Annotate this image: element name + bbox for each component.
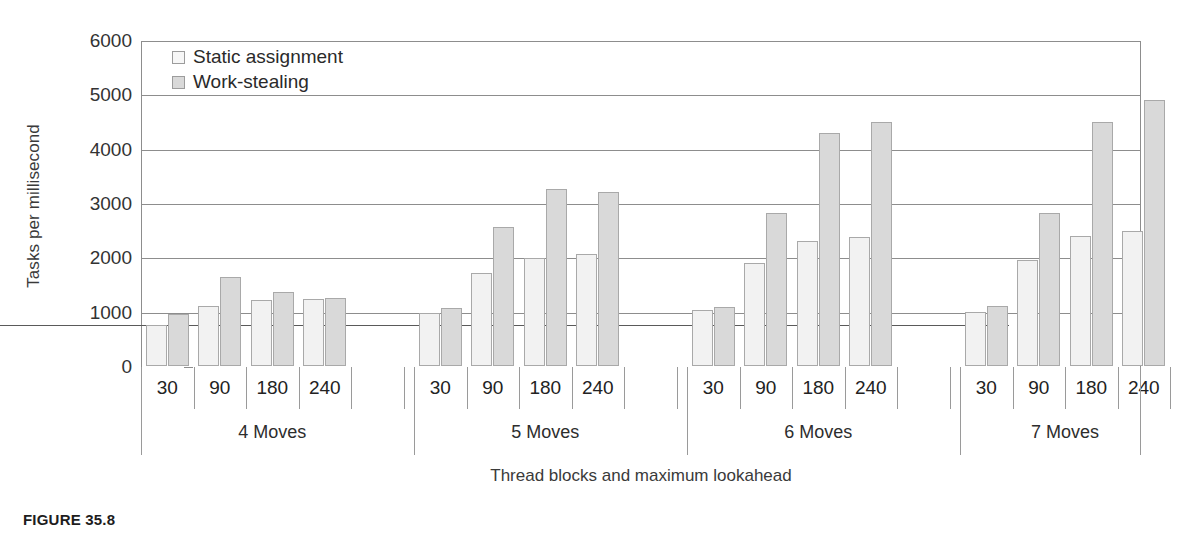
group-separator <box>1140 409 1141 455</box>
chart-legend: Static assignment Work-stealing <box>172 46 343 93</box>
legend-item-static-assignment: Static assignment <box>172 46 343 68</box>
category-separator <box>351 367 352 409</box>
bar-static-assignment-5-moves-30 <box>419 313 440 366</box>
work-stealing-swatch-icon <box>172 76 185 89</box>
y-tick-label-6000: 6000 <box>62 30 132 52</box>
bar-static-assignment-5-moves-90 <box>471 273 492 366</box>
category-label-90: 90 <box>467 367 520 409</box>
category-label-90: 90 <box>740 367 793 409</box>
bar-work-stealing-4-moves-90 <box>220 277 241 366</box>
bar-work-stealing-5-moves-240 <box>598 192 619 366</box>
group-label-6-moves: 6 Moves <box>687 409 950 455</box>
y-tick-label-2000: 2000 <box>62 247 132 269</box>
bar-work-stealing-5-moves-90 <box>493 227 514 366</box>
category-label-180: 180 <box>792 367 845 409</box>
category-label-240: 240 <box>299 367 352 409</box>
bar-work-stealing-4-moves-240 <box>325 298 346 366</box>
y-tick-label-0: 0 <box>62 356 132 378</box>
bar-static-assignment-4-moves-90 <box>198 306 219 366</box>
category-separator <box>404 367 405 409</box>
group-label-7-moves: 7 Moves <box>960 409 1170 455</box>
bar-work-stealing-6-moves-30 <box>714 307 735 366</box>
x-axis-title: Thread blocks and maximum lookahead <box>141 466 1141 486</box>
bar-work-stealing-4-moves-180 <box>273 292 294 366</box>
y-tick-label-3000: 3000 <box>62 193 132 215</box>
category-axis: 3090180240309018024030901802403090180240 <box>141 367 1141 409</box>
bar-static-assignment-6-moves-30 <box>692 310 713 366</box>
bar-work-stealing-6-moves-240 <box>871 122 892 367</box>
y-tick-label-1000: 1000 <box>62 302 132 324</box>
category-label-180: 180 <box>519 367 572 409</box>
bar-static-assignment-5-moves-240 <box>576 254 597 366</box>
category-separator <box>897 367 898 409</box>
group-label-4-moves: 4 Moves <box>141 409 404 455</box>
category-label-90: 90 <box>1013 367 1066 409</box>
bar-static-assignment-6-moves-180 <box>797 241 818 366</box>
category-separator <box>624 367 625 409</box>
category-label-30: 30 <box>687 367 740 409</box>
category-label-240: 240 <box>845 367 898 409</box>
y-tick-label-5000: 5000 <box>62 84 132 106</box>
bar-work-stealing-6-moves-90 <box>766 213 787 366</box>
category-separator <box>1140 367 1141 409</box>
legend-label-static-assignment: Static assignment <box>193 46 343 68</box>
bar-static-assignment-7-moves-30 <box>965 312 986 366</box>
bar-static-assignment-4-moves-240 <box>303 299 324 366</box>
legend-item-work-stealing: Work-stealing <box>172 71 343 93</box>
legend-label-work-stealing: Work-stealing <box>193 71 309 93</box>
category-label-30: 30 <box>960 367 1013 409</box>
category-separator <box>950 367 951 409</box>
bar-static-assignment-4-moves-30 <box>146 325 167 366</box>
bar-work-stealing-7-moves-30 <box>987 306 1008 366</box>
category-label-180: 180 <box>1065 367 1118 409</box>
bar-work-stealing-5-moves-30 <box>441 308 462 366</box>
category-label-30: 30 <box>414 367 467 409</box>
figure-container: Tasks per millisecond 010002000300040005… <box>0 0 1193 546</box>
bar-static-assignment-7-moves-240 <box>1122 231 1143 366</box>
category-label-90: 90 <box>194 367 247 409</box>
y-axis-title: Tasks per millisecond <box>24 106 44 306</box>
figure-caption: FIGURE 35.8 <box>23 511 115 528</box>
bar-static-assignment-5-moves-180 <box>524 258 545 366</box>
y-tick-label-4000: 4000 <box>62 139 132 161</box>
bar-work-stealing-7-moves-90 <box>1039 213 1060 366</box>
category-label-240: 240 <box>572 367 625 409</box>
category-separator <box>677 367 678 409</box>
bar-static-assignment-6-moves-240 <box>849 237 870 366</box>
category-label-30: 30 <box>141 367 194 409</box>
category-separator <box>1170 367 1171 409</box>
bar-static-assignment-7-moves-90 <box>1017 260 1038 366</box>
bar-work-stealing-6-moves-180 <box>819 133 840 366</box>
group-label-5-moves: 5 Moves <box>414 409 677 455</box>
bar-work-stealing-7-moves-240 <box>1144 100 1165 366</box>
static-assignment-swatch-icon <box>172 51 185 64</box>
group-axis: 4 Moves5 Moves6 Moves7 Moves <box>141 409 1141 455</box>
category-label-240: 240 <box>1118 367 1171 409</box>
bar-static-assignment-6-moves-90 <box>744 263 765 366</box>
category-label-180: 180 <box>246 367 299 409</box>
y-axis-tick-labels: 0100020003000400050006000 <box>52 41 132 367</box>
bar-work-stealing-5-moves-180 <box>546 189 567 366</box>
bar-work-stealing-7-moves-180 <box>1092 122 1113 367</box>
bar-work-stealing-4-moves-30 <box>168 314 189 366</box>
bar-static-assignment-4-moves-180 <box>251 300 272 366</box>
bar-static-assignment-7-moves-180 <box>1070 236 1091 366</box>
